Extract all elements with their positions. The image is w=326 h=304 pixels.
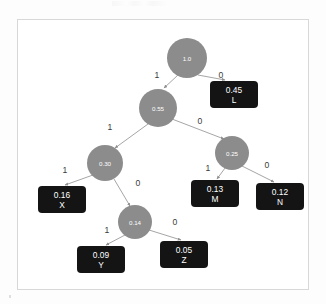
edge-label: 0: [198, 116, 203, 126]
leaf-name: X: [59, 200, 65, 210]
edge-label: 1: [63, 165, 68, 175]
tree-edge: [164, 75, 178, 88]
tree-edge: [115, 124, 148, 148]
edge-label: 0: [136, 178, 141, 188]
corner-artifact: [9, 295, 11, 298]
leaf-value: 0.09: [93, 250, 110, 260]
leaf-value: 0.45: [226, 85, 243, 95]
leaf-node: 0.09Y: [77, 246, 125, 273]
edge-label: 1: [105, 225, 110, 235]
leaf-value: 0.13: [207, 184, 224, 194]
page-root: 0.45L0.16X0.13M0.12N0.09Y0.05Z 1.00.550.…: [0, 0, 326, 304]
leaf-node: 0.16X: [38, 186, 86, 213]
node-label: 1.0: [183, 55, 192, 62]
leaf-value: 0.05: [176, 245, 193, 255]
edge-label: 1: [155, 70, 160, 80]
tree-edge: [114, 179, 130, 206]
internal-node: 0.14: [118, 205, 152, 239]
leaf-node: 0.05Z: [160, 241, 208, 268]
leaf-name: Y: [98, 260, 104, 270]
internal-node: 0.55: [139, 89, 177, 127]
decision-tree-diagram: 0.45L0.16X0.13M0.12N0.09Y0.05Z 1.00.550.…: [18, 20, 310, 291]
leaf-value: 0.12: [272, 187, 289, 197]
leaf-value: 0.16: [54, 190, 71, 200]
tree-edge: [106, 235, 125, 245]
edge-label: 0: [265, 160, 270, 170]
edge-label: 0: [173, 217, 178, 227]
top-edge-artifact: [112, 1, 168, 6]
edge-label: 0: [219, 70, 224, 80]
internal-node: 0.25: [215, 136, 249, 170]
node-label: 0.30: [99, 160, 112, 167]
node-label: 0.25: [226, 150, 239, 157]
nodes-layer: 1.00.550.250.300.14: [87, 38, 249, 239]
leaf-name: Z: [181, 255, 186, 265]
leaf-node: 0.13M: [191, 180, 239, 207]
tree-edge: [149, 230, 181, 240]
edge-label: 1: [108, 122, 113, 132]
leaf-name: N: [277, 197, 283, 207]
edge-label: 1: [206, 163, 211, 173]
tree-edge: [217, 168, 225, 179]
internal-node: 0.30: [87, 145, 123, 181]
leaf-name: L: [232, 95, 237, 105]
node-label: 0.55: [152, 105, 165, 112]
leaf-node: 0.45L: [210, 81, 258, 108]
tree-edge: [65, 175, 93, 185]
node-label: 0.14: [129, 219, 142, 226]
leaf-name: M: [212, 194, 219, 204]
diagram-frame: 0.45L0.16X0.13M0.12N0.09Y0.05Z 1.00.550.…: [17, 19, 309, 290]
leaf-node: 0.12N: [256, 183, 304, 210]
internal-node: 1.0: [167, 38, 207, 78]
